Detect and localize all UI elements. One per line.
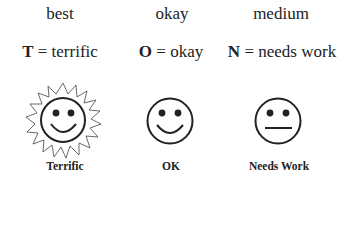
neutral-face-icon bbox=[256, 99, 301, 144]
caption-ok: OK bbox=[162, 160, 180, 172]
smiley-icon bbox=[148, 99, 193, 144]
caption-needs-work: Needs Work bbox=[249, 160, 309, 172]
sun-smiley-icon bbox=[26, 83, 101, 158]
caption-terrific: Terrific bbox=[46, 160, 83, 172]
